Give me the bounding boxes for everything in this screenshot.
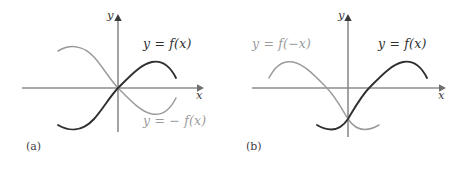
panel-a-curve-label-f: y = f(x) [143, 36, 192, 51]
y-axis-arrow-icon [344, 14, 351, 21]
panel-a: y x y = f(x) y = − f(x) (a) [0, 0, 234, 169]
y-axis-arrow-icon [114, 14, 121, 21]
panel-b-y-axis-label: y [338, 8, 345, 22]
panel-a-curve-label-neg-f: y = − f(x) [143, 113, 206, 128]
panel-b-curve-label-f-neg-x: y = f(−x) [252, 36, 311, 51]
panel-b-caption: (b) [246, 140, 262, 153]
panel-b-graph [234, 0, 468, 169]
panel-a-y-axis-label: y [107, 8, 114, 22]
curve-neg-f-of-x [58, 47, 176, 115]
panel-b-x-axis-label: x [438, 88, 445, 102]
panel-a-caption: (a) [26, 140, 41, 153]
reflection-figure: y x y = f(x) y = − f(x) (a) y x y = f(−x… [0, 0, 468, 169]
panel-b: y x y = f(−x) y = f(x) (b) [234, 0, 468, 169]
panel-b-curve-label-f: y = f(x) [378, 36, 427, 51]
panel-a-x-axis-label: x [196, 88, 203, 102]
